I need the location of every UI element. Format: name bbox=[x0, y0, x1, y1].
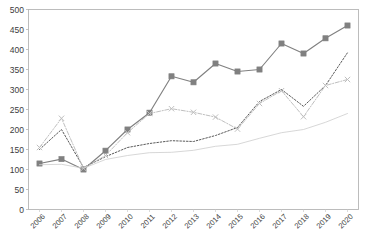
data-point-marker bbox=[213, 61, 218, 66]
data-point-marker bbox=[169, 74, 174, 79]
x-tick-label: 2009 bbox=[95, 212, 113, 230]
y-tick-label: 200 bbox=[10, 125, 24, 135]
y-tick-label: 100 bbox=[10, 165, 24, 175]
chart-container: 0501001502002503003504004505002006200720… bbox=[0, 0, 368, 230]
x-tick-label: 2006 bbox=[29, 212, 47, 230]
y-tick-label: 500 bbox=[10, 5, 24, 15]
x-tick-label: 2018 bbox=[293, 212, 311, 230]
y-tick-label: 0 bbox=[19, 205, 24, 215]
x-tick-label: 2020 bbox=[337, 212, 355, 230]
x-tick-label: 2017 bbox=[271, 212, 289, 230]
x-tick-label: 2019 bbox=[315, 212, 333, 230]
y-tick-label: 400 bbox=[10, 45, 24, 55]
y-tick-label: 450 bbox=[10, 25, 24, 35]
x-tick-label: 2013 bbox=[183, 212, 201, 230]
data-point-marker bbox=[323, 36, 328, 41]
data-point-marker bbox=[235, 69, 240, 74]
x-tick-label: 2010 bbox=[117, 212, 135, 230]
x-tick-label: 2008 bbox=[73, 212, 91, 230]
x-tick-label: 2007 bbox=[51, 212, 69, 230]
x-tick-label: 2011 bbox=[139, 212, 157, 230]
data-point-marker bbox=[59, 157, 64, 162]
data-point-marker bbox=[257, 67, 262, 72]
x-tick-label: 2014 bbox=[205, 212, 223, 230]
x-tick-label: 2015 bbox=[227, 212, 245, 230]
x-tick-label: 2012 bbox=[161, 212, 179, 230]
y-tick-label: 350 bbox=[10, 65, 24, 75]
line-chart: 0501001502002503003504004505002006200720… bbox=[0, 0, 368, 230]
y-tick-label: 250 bbox=[10, 105, 24, 115]
y-tick-label: 50 bbox=[15, 185, 25, 195]
y-tick-label: 300 bbox=[10, 85, 24, 95]
data-point-marker bbox=[103, 148, 108, 153]
data-point-marker bbox=[301, 51, 306, 56]
x-tick-label: 2016 bbox=[249, 212, 267, 230]
data-point-marker bbox=[279, 41, 284, 46]
data-point-marker bbox=[345, 23, 350, 28]
data-point-marker bbox=[191, 80, 196, 85]
data-point-marker bbox=[37, 161, 42, 166]
y-tick-label: 150 bbox=[10, 145, 24, 155]
